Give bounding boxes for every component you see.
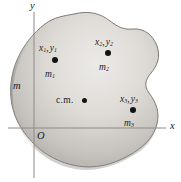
body-mass-label: m	[13, 81, 21, 92]
particle-3-marker-dot	[130, 107, 136, 113]
particle-1-mass-label: m1	[45, 70, 55, 80]
particle-1-marker-dot	[52, 57, 58, 63]
particle-2-marker-dot	[105, 50, 111, 56]
center-of-mass-figure: y x O m x1, y1 m1 x2, y2 m2 x3, y3 m3 c.…	[0, 0, 181, 182]
particle-3-mass-label: m3	[124, 119, 134, 129]
particle-3-coordinate-label: x3, y3	[120, 95, 138, 105]
coordinate-axes-layer	[0, 0, 181, 182]
particle-1-x-subscript: 1	[43, 47, 46, 53]
particle-3-mass-symbol: m	[124, 118, 131, 128]
particle-2-mass-label: m2	[99, 63, 109, 73]
particle-2-mass-subscript: 2	[106, 66, 109, 72]
origin-label: O	[37, 131, 45, 142]
particle-3-x-subscript: 3	[124, 98, 127, 104]
particle-3-y-subscript: 3	[135, 98, 138, 104]
particle-2-x-subscript: 2	[99, 41, 102, 47]
particle-3-mass-subscript: 3	[131, 122, 134, 128]
particle-1-mass-subscript: 1	[52, 73, 55, 79]
center-of-mass-label: c.m.	[56, 96, 74, 106]
particle-1-y-subscript: 1	[54, 47, 57, 53]
y-axis-label: y	[30, 1, 35, 12]
particle-1-mass-symbol: m	[45, 69, 52, 79]
particle-2-mass-symbol: m	[99, 62, 106, 72]
particle-1-coordinate-label: x1, y1	[39, 44, 57, 54]
x-axis-label: x	[170, 121, 175, 132]
particle-2-coordinate-label: x2, y2	[95, 38, 113, 48]
center-of-mass-marker-dot	[82, 98, 87, 103]
particle-2-y-subscript: 2	[110, 41, 113, 47]
